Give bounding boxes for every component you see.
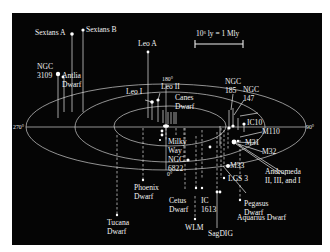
m32-dot — [237, 140, 240, 143]
phoenix-dot — [142, 179, 144, 181]
ngc-6822-dot — [186, 158, 189, 161]
sextans-a-dot — [70, 32, 74, 36]
label-lgs3: LGS 3 — [228, 175, 248, 184]
leo-ii-dot — [156, 98, 159, 101]
label-sagdig: SagDIG — [208, 230, 233, 239]
ic-1613-dot — [201, 187, 203, 189]
scale-bar — [195, 40, 243, 48]
ngc-3109-dot — [56, 72, 60, 76]
label-leo-i: Leo I — [126, 88, 142, 97]
cetus-dot — [195, 187, 197, 189]
aquarius-dot — [219, 191, 222, 194]
label-ngc-147: NGC 147 — [243, 86, 259, 103]
label-wlm: WLM — [185, 224, 204, 233]
scale-bar-label: 10⁶ ly = 1 Mly — [196, 29, 239, 38]
milky-way-dot — [163, 124, 169, 128]
label-ic-1613: IC 1613 — [201, 197, 216, 214]
lgs3-dot — [223, 177, 225, 179]
leo-i-dot — [150, 100, 154, 104]
label-m31: M31 — [245, 139, 259, 148]
label-ngc-6822: NGC 6822 — [168, 156, 184, 173]
label-cetus-dwarf: Cetus Dwarf — [169, 197, 188, 214]
m31-dot — [232, 140, 237, 145]
label-m32: M32 — [262, 148, 276, 157]
sextans-b-dot — [81, 28, 84, 31]
ic10-dot — [242, 122, 245, 125]
label-m33: M33 — [230, 162, 244, 171]
angle-90-label: 90° — [306, 124, 314, 130]
label-leo-a: Leo A — [138, 40, 157, 49]
label-canes-dwarf: Canes Dwarf — [175, 94, 194, 111]
label-sextans-a: Sextans A — [35, 29, 66, 38]
label-leo-ii: Leo II — [161, 83, 180, 92]
angle-270-label: 270° — [13, 124, 24, 130]
label-phoenix-dwarf: Phoenix Dwarf — [134, 184, 159, 201]
label-ic10: IC10 — [247, 119, 262, 128]
label-m110: M110 — [262, 128, 280, 137]
tucana-dot — [116, 214, 118, 216]
label-ngc-3109: NGC 3109 — [37, 63, 53, 80]
label-antlia-dwarf: Antlia Dwarf — [62, 72, 81, 89]
label-ngc-185: NGC 185 — [225, 78, 241, 95]
label-andromeda-dwarfs: Andromeda II, III, and I — [265, 168, 301, 185]
label-sextans-b: Sextans B — [86, 26, 117, 35]
leo-a-dot — [147, 51, 150, 54]
label-aquarius-dwarf: Aquarius Dwarf — [237, 214, 286, 223]
label-milky-way: Milky Way — [168, 138, 187, 155]
label-tucana-dwarf: Tucana Dwarf — [107, 219, 129, 236]
